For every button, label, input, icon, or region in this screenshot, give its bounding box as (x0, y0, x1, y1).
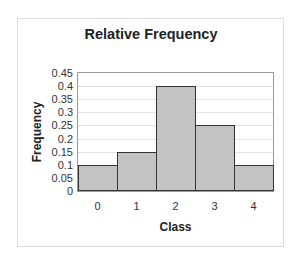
y-tick-label: 0.1 (33, 159, 73, 171)
bar-class-0 (78, 165, 118, 191)
x-tick-label: 1 (117, 200, 157, 212)
y-tick-label: 0.15 (33, 146, 73, 158)
bar-class-2 (156, 86, 196, 191)
y-tick-label: 0.2 (33, 133, 73, 145)
y-tick-label: 0.3 (33, 106, 73, 118)
x-tick-label: 0 (78, 200, 118, 212)
x-axis-label: Class (77, 220, 274, 234)
y-tick-label: 0.25 (33, 119, 73, 131)
bar-class-4 (234, 165, 274, 191)
y-tick-label: 0.35 (33, 93, 73, 105)
bar-class-3 (195, 125, 235, 191)
y-tick-label: 0.4 (33, 80, 73, 92)
x-tick-label: 3 (195, 200, 235, 212)
chart-title: Relative Frequency (0, 26, 294, 42)
x-tick-label: 4 (234, 200, 274, 212)
y-tick-label: 0 (33, 185, 73, 197)
y-tick-label: 0.05 (33, 172, 73, 184)
y-tick-label: 0.45 (33, 67, 73, 79)
x-tick-label: 2 (156, 200, 196, 212)
bar-class-1 (117, 152, 157, 191)
plot-area (77, 72, 274, 192)
